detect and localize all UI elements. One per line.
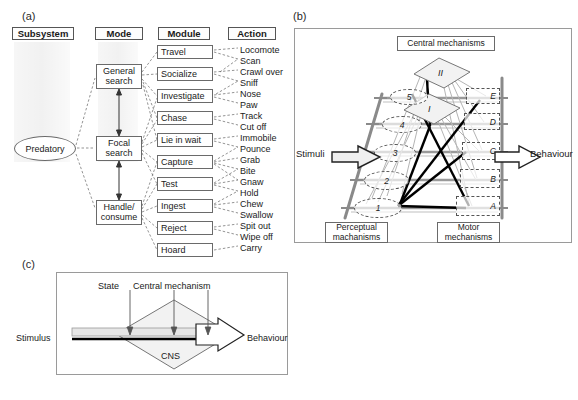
panel-a-connectors xyxy=(0,0,290,270)
panel-c-state-label: State xyxy=(98,281,119,291)
panel-b-perceptual-node-1[interactable]: 1 xyxy=(354,198,402,218)
panel-b-motor-node-d[interactable]: D xyxy=(464,113,500,130)
panel-b-perceptual-node-5[interactable]: 5 xyxy=(390,89,428,105)
panel-c-stimulus-label: Stimulus xyxy=(16,333,51,343)
stimuli-arrow-icon xyxy=(330,144,384,170)
panel-b-behaviour-label: Behaviour xyxy=(530,148,573,159)
panel-c-cns-label: CNS xyxy=(161,351,180,361)
panel-b-motor-node-e[interactable]: E xyxy=(466,88,500,104)
panel-b-perceptual-mechanisms-label: Perceptual machanisms xyxy=(325,222,388,243)
panel-b-motor-label-line2: mechanisms xyxy=(445,233,493,243)
panel-b-letter: (b) xyxy=(293,10,306,22)
panel-b-central-node-ii[interactable]: II xyxy=(438,68,443,78)
panel-c-letter: (c) xyxy=(22,258,35,270)
panel-b-motor-node-b[interactable]: B xyxy=(460,169,500,188)
panel-b-perceptual-node-2[interactable]: 2 xyxy=(364,171,409,190)
panel-b-stimuli-label: Stimuli xyxy=(296,148,325,159)
panel-c-behaviour-label: Behaviour xyxy=(247,333,288,343)
panel-b-perceptual-label-line2: machanisms xyxy=(333,233,381,243)
panel-b-central-node-i[interactable]: I xyxy=(428,104,431,114)
panel-b-motor-mechanisms-label: Motor mechanisms xyxy=(437,222,500,243)
panel-b-perceptual-node-4[interactable]: 4 xyxy=(382,116,422,133)
panel-c-central-mechanism-label: Central mechanism xyxy=(133,281,211,291)
panel-b-schematic xyxy=(294,28,572,243)
panel-b-motor-node-a[interactable]: A xyxy=(456,196,500,216)
